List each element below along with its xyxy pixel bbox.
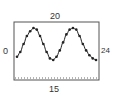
data-point [78,35,81,38]
data-point [62,41,65,44]
data-point [42,43,45,46]
data-point [72,27,75,30]
data-point [45,51,48,54]
data-point [39,35,42,38]
data-point [35,28,38,31]
data-point [75,28,78,31]
data-point [16,56,19,59]
top-label: 20 [50,12,60,21]
bottom-label: 15 [49,85,59,94]
data-point [65,33,68,36]
data-point [91,57,94,60]
data-point [68,28,71,31]
data-point [82,43,85,46]
data-point [58,49,61,52]
data-point [22,43,25,46]
left-label: 0 [3,47,8,56]
data-point [55,56,58,59]
right-label: 24 [101,46,110,55]
data-point [29,30,32,33]
sine-curve [17,28,96,60]
data-points [16,27,98,62]
data-point [26,35,29,38]
data-point [49,57,52,60]
data-point [95,59,98,62]
data-point [88,54,91,57]
data-point [85,49,88,52]
data-point [32,27,35,30]
data-point [19,51,22,54]
data-point [52,59,55,62]
